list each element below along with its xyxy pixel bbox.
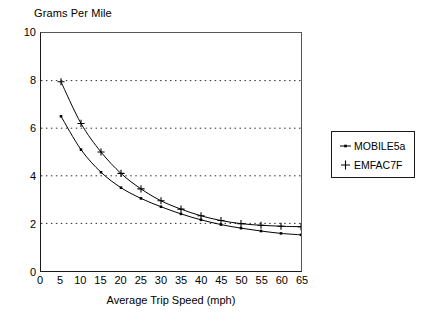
- data-point-marker: [80, 148, 83, 151]
- data-point-marker: [300, 234, 301, 237]
- y-tick-label: 10: [10, 27, 36, 38]
- data-point-marker: [60, 115, 63, 118]
- data-point-marker: [280, 232, 283, 235]
- plot-area: [40, 32, 302, 272]
- series-line: [61, 82, 301, 227]
- data-point-marker: [277, 223, 284, 230]
- x-tick-label: 65: [289, 274, 315, 286]
- data-point-marker: [237, 220, 244, 227]
- y-tick-label: 4: [10, 171, 36, 182]
- data-point-marker: [120, 186, 123, 189]
- x-axis-tick-labels: 05101520253035404550556065: [40, 274, 302, 290]
- data-point-marker: [140, 197, 143, 200]
- data-point-marker: [57, 78, 64, 85]
- data-point-marker: [180, 213, 183, 216]
- plot-canvas: [41, 33, 301, 271]
- legend-item: EMFAC7F: [337, 155, 414, 174]
- gridlines: [41, 81, 301, 224]
- data-point-marker: [297, 223, 301, 230]
- data-point-marker: [260, 230, 263, 233]
- legend-item: MOBILE5a: [337, 136, 414, 155]
- plus-marker-icon: [337, 158, 354, 172]
- legend-label: MOBILE5a: [354, 140, 405, 152]
- y-axis-label: Grams Per Mile: [34, 7, 112, 19]
- data-point-marker: [137, 185, 144, 192]
- data-point-marker: [77, 120, 84, 127]
- data-point-marker: [177, 206, 184, 213]
- chart-legend: MOBILE5aEMFAC7F: [331, 131, 415, 178]
- legend-label: EMFAC7F: [354, 159, 402, 171]
- square-dot-marker-icon: [337, 139, 354, 153]
- data-point-marker: [160, 205, 163, 208]
- data-point-marker: [157, 197, 164, 204]
- data-point-marker: [197, 212, 204, 219]
- y-axis-tick-labels: 0246810: [8, 32, 36, 272]
- y-tick-label: 2: [10, 219, 36, 230]
- y-tick-label: 8: [10, 75, 36, 86]
- data-series-layer: [57, 78, 301, 236]
- data-point-marker: [240, 227, 243, 230]
- data-point-marker: [257, 222, 264, 229]
- y-tick-label: 6: [10, 123, 36, 134]
- series-emfac7f: [57, 78, 301, 230]
- data-point-marker: [100, 171, 103, 174]
- x-axis-label: Average Trip Speed (mph): [40, 294, 302, 306]
- chart-figure: Grams Per Mile 0246810 05101520253035404…: [0, 0, 425, 321]
- data-point-marker: [217, 217, 224, 224]
